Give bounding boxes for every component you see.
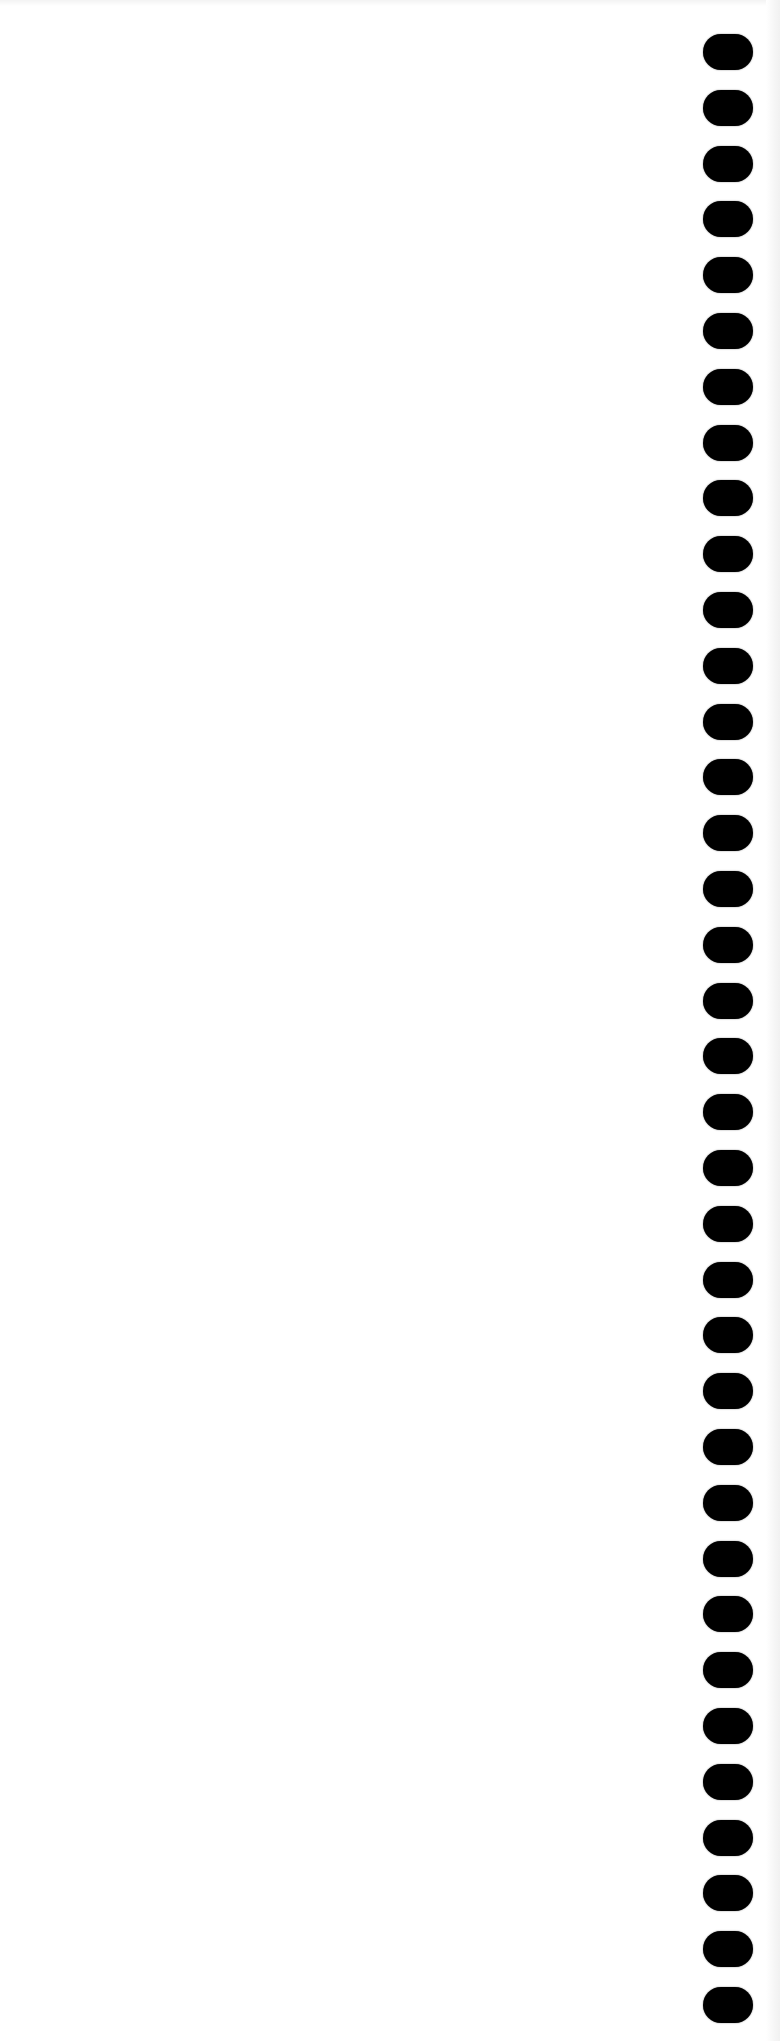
binding-hole-icon — [703, 1596, 753, 1632]
binding-hole-icon — [703, 592, 753, 628]
binding-hole-strip — [0, 0, 780, 2041]
binding-hole-icon — [703, 90, 753, 126]
binding-hole-icon — [703, 201, 753, 237]
binding-hole-icon — [703, 1262, 753, 1298]
binding-hole-icon — [703, 1652, 753, 1688]
scanned-page — [0, 0, 780, 2041]
binding-hole-icon — [703, 257, 753, 293]
binding-hole-icon — [703, 480, 753, 516]
binding-hole-icon — [703, 1764, 753, 1800]
binding-hole-icon — [703, 648, 753, 684]
binding-hole-icon — [703, 1820, 753, 1856]
binding-hole-icon — [703, 1987, 753, 2023]
binding-hole-icon — [703, 34, 753, 70]
binding-hole-icon — [703, 1931, 753, 1967]
binding-hole-icon — [703, 1150, 753, 1186]
binding-hole-icon — [703, 1875, 753, 1911]
binding-hole-icon — [703, 1038, 753, 1074]
binding-hole-icon — [703, 1206, 753, 1242]
binding-hole-icon — [703, 369, 753, 405]
binding-hole-icon — [703, 1317, 753, 1353]
binding-hole-icon — [703, 313, 753, 349]
binding-hole-icon — [703, 1708, 753, 1744]
binding-hole-icon — [703, 927, 753, 963]
binding-hole-icon — [703, 425, 753, 461]
binding-hole-icon — [703, 1541, 753, 1577]
binding-hole-icon — [703, 1485, 753, 1521]
binding-hole-icon — [703, 815, 753, 851]
binding-hole-icon — [703, 536, 753, 572]
binding-hole-icon — [703, 871, 753, 907]
binding-hole-icon — [703, 704, 753, 740]
binding-hole-icon — [703, 146, 753, 182]
binding-hole-icon — [703, 983, 753, 1019]
binding-hole-icon — [703, 759, 753, 795]
binding-hole-icon — [703, 1373, 753, 1409]
binding-hole-icon — [703, 1094, 753, 1130]
binding-hole-icon — [703, 1429, 753, 1465]
scan-right-edge — [766, 0, 780, 2041]
